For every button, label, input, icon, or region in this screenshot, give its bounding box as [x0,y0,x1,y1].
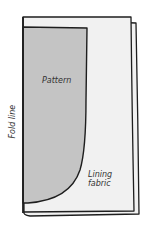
lining-label-line2: fabric [88,179,112,188]
lining-fabric-label: Lining fabric [88,170,112,188]
pattern-layout-diagram [0,0,149,236]
fold-line-label: Fold line [8,105,17,139]
pattern-piece [23,27,87,203]
lining-label-line1: Lining [88,170,112,179]
pattern-label: Pattern [42,76,71,85]
